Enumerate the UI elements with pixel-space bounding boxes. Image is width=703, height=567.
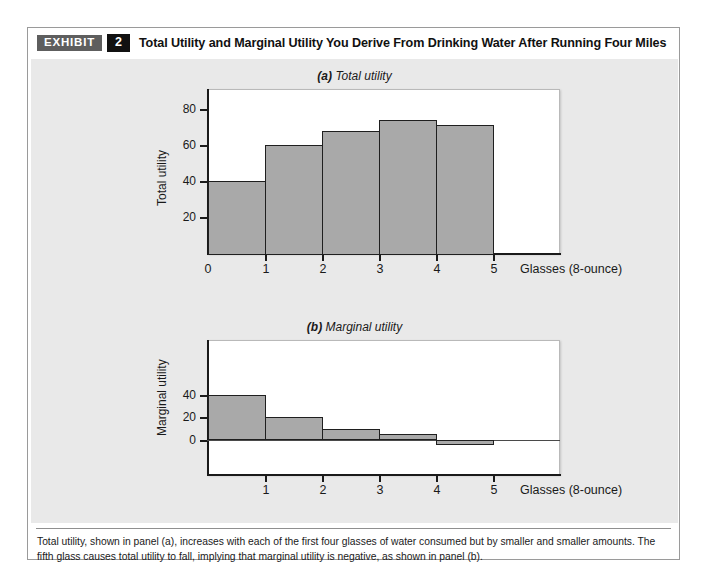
bar-b-1 — [208, 395, 266, 440]
panel-b-xtick-4 — [436, 476, 438, 482]
panel-b-xtick-1 — [265, 476, 267, 482]
panel-a-title-text: Total utility — [335, 69, 391, 83]
panel-a-xtick-2 — [322, 255, 324, 261]
panel-a-ytick-label-40: 40 — [170, 174, 196, 188]
bar-a-1 — [208, 181, 266, 255]
bar-b-5-negative — [436, 440, 494, 445]
panel-a-xtick-label-3: 3 — [370, 262, 390, 276]
panel-b-ytick-20 — [200, 417, 207, 419]
panel-a-xtick-4 — [436, 255, 438, 261]
panel-b-title-text: Marginal utility — [325, 320, 402, 334]
panel-b-xtick-label-3: 3 — [370, 483, 390, 497]
panel-a-title: (a) Total utility — [31, 69, 678, 83]
panel-a-ytick-20 — [200, 217, 207, 219]
panel-b-xtick-5 — [493, 476, 495, 482]
panel-a-ytick-label-20: 20 — [170, 210, 196, 224]
bar-a-4 — [379, 120, 437, 255]
bar-b-4 — [379, 434, 437, 440]
panel-b-xtick-2 — [322, 476, 324, 482]
panel-a-xtick-1 — [265, 255, 267, 261]
bar-b-3 — [322, 429, 380, 440]
exhibit-title: Total Utility and Marginal Utility You D… — [139, 36, 666, 50]
panel-a-ytick-label-60: 60 — [170, 138, 196, 152]
panel-a-xtick-label-0: 0 — [198, 262, 218, 276]
chart-panel-b: (b) Marginal utility 40 20 0 Marginal ut… — [31, 314, 678, 514]
exhibit-badge: EXHIBIT — [37, 35, 102, 52]
panel-b-ytick-0 — [200, 440, 207, 442]
panel-b-xtick-3 — [379, 476, 381, 482]
panel-b-x-axis — [207, 474, 561, 476]
exhibit-body: (a) Total utility 80 60 40 20 Total util… — [31, 59, 678, 523]
panel-a-ytick-label-80: 80 — [170, 102, 196, 116]
panel-b-xtick-label-1: 1 — [256, 483, 276, 497]
panel-a-xtick-label-2: 2 — [313, 262, 333, 276]
bar-a-2 — [265, 145, 323, 255]
panel-a-xtick-label-5: 5 — [484, 262, 504, 276]
caption-divider — [36, 528, 671, 529]
panel-a-title-prefix: (a) — [317, 69, 332, 83]
panel-b-ytick-label-0: 0 — [170, 433, 196, 447]
panel-b-ytick-40 — [200, 395, 207, 397]
bar-a-3 — [322, 131, 380, 255]
panel-b-xtick-label-5: 5 — [484, 483, 504, 497]
panel-a-xtick-label-1: 1 — [256, 262, 276, 276]
exhibit-container: EXHIBIT 2 Total Utility and Marginal Uti… — [27, 27, 680, 560]
exhibit-header: EXHIBIT 2 Total Utility and Marginal Uti… — [28, 28, 679, 58]
panel-b-xtick-label-4: 4 — [427, 483, 447, 497]
panel-a-ytick-40 — [200, 181, 207, 183]
bar-a-5 — [436, 125, 494, 255]
panel-a-ytick-60 — [200, 145, 207, 147]
panel-b-zero-line — [207, 440, 560, 441]
panel-b-ytick-label-20: 20 — [170, 410, 196, 424]
panel-a-xtick-3 — [379, 255, 381, 261]
panel-a-xtick-5 — [493, 255, 495, 261]
panel-a-xtick-label-4: 4 — [427, 262, 447, 276]
panel-b-title: (b) Marginal utility — [31, 320, 678, 334]
panel-a-ytick-80 — [200, 109, 207, 111]
exhibit-number-badge: 2 — [107, 34, 130, 52]
panel-b-title-prefix: (b) — [307, 320, 322, 334]
panel-a-x-axis-title: Glasses (8-ounce) — [520, 262, 622, 276]
panel-a-y-axis-title: Total utility — [155, 150, 169, 206]
panel-b-x-axis-title: Glasses (8-ounce) — [520, 483, 622, 497]
chart-panel-a: (a) Total utility 80 60 40 20 Total util… — [31, 63, 678, 293]
exhibit-caption: Total utility, shown in panel (a), incre… — [37, 534, 673, 565]
bar-b-2 — [265, 417, 323, 440]
panel-b-ytick-label-40: 40 — [170, 388, 196, 402]
panel-b-y-axis-title: Marginal utility — [155, 359, 169, 436]
panel-b-xtick-label-2: 2 — [313, 483, 333, 497]
